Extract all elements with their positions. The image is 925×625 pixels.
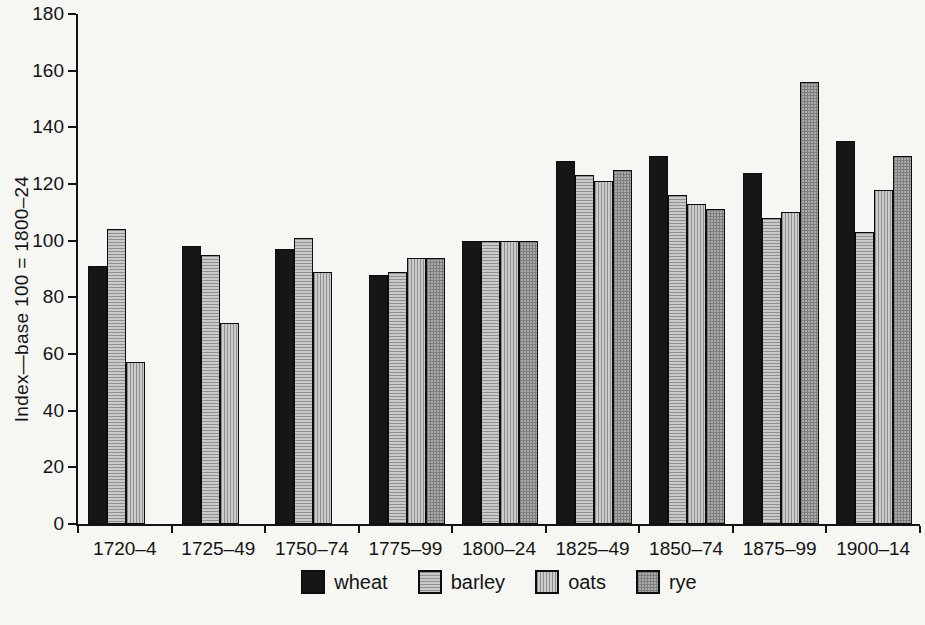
x-category-label: 1800–24	[452, 538, 546, 560]
bar-wheat	[743, 173, 762, 524]
bar-oats	[313, 272, 332, 524]
y-tick-mark	[68, 410, 76, 412]
x-category-label: 1775–99	[359, 538, 453, 560]
bar-rye	[613, 170, 632, 524]
y-tick-label: 20	[0, 456, 64, 478]
x-tick-mark	[451, 526, 453, 533]
x-tick-mark	[638, 526, 640, 533]
x-category-label: 1725–49	[172, 538, 266, 560]
y-tick-mark	[68, 70, 76, 72]
y-tick-mark	[68, 13, 76, 15]
y-tick-label: 80	[0, 286, 64, 308]
y-tick-label: 0	[0, 513, 64, 535]
wheat-legend-swatch	[301, 570, 325, 594]
bar-wheat	[275, 249, 294, 524]
x-tick-mark	[264, 526, 266, 533]
y-axis-line	[76, 14, 78, 526]
y-tick-label: 40	[0, 400, 64, 422]
y-tick-mark	[68, 466, 76, 468]
x-tick-mark	[171, 526, 173, 533]
y-tick-label: 180	[0, 3, 64, 25]
x-tick-mark	[732, 526, 734, 533]
x-category-label: 1720–4	[78, 538, 172, 560]
x-category-label: 1750–74	[265, 538, 359, 560]
legend-label: rye	[669, 570, 697, 594]
x-axis-line	[76, 524, 920, 526]
bar-wheat	[649, 156, 668, 524]
x-tick-mark	[545, 526, 547, 533]
bar-rye	[519, 241, 538, 524]
bar-oats	[687, 204, 706, 524]
bar-oats	[220, 323, 239, 524]
bar-wheat	[462, 241, 481, 524]
bar-barley	[762, 218, 781, 524]
bar-rye	[426, 258, 445, 524]
bar-rye	[893, 156, 912, 524]
bar-oats	[874, 190, 893, 524]
bar-oats	[407, 258, 426, 524]
x-category-label: 1875–99	[733, 538, 827, 560]
bar-barley	[481, 241, 500, 524]
barley-legend-swatch	[418, 570, 442, 594]
oats-legend-swatch	[535, 570, 559, 594]
legend-label: barley	[451, 570, 505, 594]
bar-wheat	[556, 161, 575, 524]
y-tick-label: 140	[0, 116, 64, 138]
x-category-label: 1825–49	[546, 538, 640, 560]
bar-wheat	[88, 266, 107, 524]
x-tick-mark	[825, 526, 827, 533]
rye-legend-swatch	[636, 570, 660, 594]
bar-barley	[388, 272, 407, 524]
bar-barley	[107, 229, 126, 524]
y-tick-label: 100	[0, 230, 64, 252]
bar-barley	[201, 255, 220, 524]
bar-oats	[126, 362, 145, 524]
y-tick-mark	[68, 240, 76, 242]
y-tick-mark	[68, 126, 76, 128]
bar-wheat	[182, 246, 201, 524]
x-category-label: 1900–14	[826, 538, 920, 560]
bar-barley	[668, 195, 687, 524]
bar-wheat	[369, 275, 388, 524]
bar-oats	[500, 241, 519, 524]
legend-item: wheat	[301, 570, 387, 594]
legend-label: oats	[568, 570, 606, 594]
legend-label: wheat	[334, 570, 387, 594]
bar-rye	[800, 82, 819, 524]
plot-area: 0204060801001201401601801720–41725–49175…	[0, 0, 925, 625]
legend: wheatbarleyoatsrye	[78, 570, 920, 594]
bar-barley	[855, 232, 874, 524]
legend-item: barley	[418, 570, 505, 594]
legend-item: oats	[535, 570, 606, 594]
bar-barley	[575, 175, 594, 524]
y-tick-label: 160	[0, 60, 64, 82]
bar-wheat	[836, 141, 855, 524]
y-tick-label: 120	[0, 173, 64, 195]
bar-barley	[294, 238, 313, 524]
bar-rye	[706, 209, 725, 524]
bar-oats	[781, 212, 800, 524]
y-tick-mark	[68, 523, 76, 525]
x-tick-mark	[77, 526, 79, 533]
bar-chart-figure: Index—base 100 = 1800–24 020406080100120…	[0, 0, 925, 625]
y-tick-mark	[68, 353, 76, 355]
x-tick-mark	[358, 526, 360, 533]
y-tick-label: 60	[0, 343, 64, 365]
y-tick-mark	[68, 183, 76, 185]
x-category-label: 1850–74	[639, 538, 733, 560]
legend-item: rye	[636, 570, 697, 594]
bar-oats	[594, 181, 613, 524]
y-tick-mark	[68, 296, 76, 298]
x-tick-mark	[919, 526, 921, 533]
